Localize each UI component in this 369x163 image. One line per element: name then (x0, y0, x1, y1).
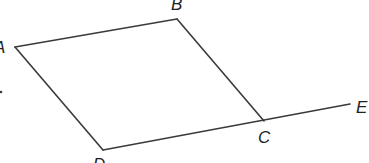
parallelogram-diagram: A B C D E (0, 0, 369, 163)
segment-bc (177, 19, 264, 121)
label-e: E (356, 98, 368, 117)
label-d: D (93, 155, 105, 163)
segment-ab (15, 19, 177, 47)
label-c: C (258, 128, 271, 147)
segment-ad (15, 47, 103, 150)
stray-dot (0, 91, 2, 94)
segment-de (103, 104, 350, 150)
label-a: A (0, 38, 5, 57)
label-b: B (171, 0, 182, 14)
